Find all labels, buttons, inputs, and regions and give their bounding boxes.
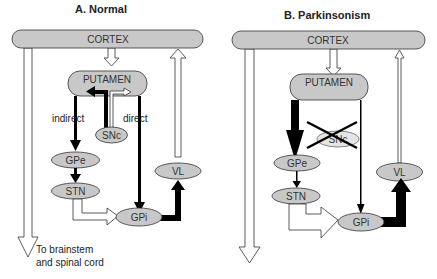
- node-gpe-b: GPe: [274, 155, 320, 171]
- node-stn-label-b: STN: [286, 191, 306, 202]
- output-label-line1: To brainstem: [36, 244, 93, 255]
- cortex-to-putamen-arrow: [104, 48, 119, 66]
- vl-to-cortex-arrow-b: [395, 50, 404, 163]
- node-gpi-b: GPi: [338, 213, 384, 231]
- basal-ganglia-diagram: A. Normal CORTEX PUTAMEN: [0, 0, 437, 279]
- node-snc-label: SNc: [102, 130, 121, 141]
- node-gpi: GPi: [116, 208, 162, 226]
- node-vl-label-b: VL: [393, 167, 406, 178]
- stn-to-gpi-arrow-b: [289, 204, 338, 238]
- panel-title-parkinsonism: B. Parkinsonism: [284, 9, 370, 21]
- node-snc: SNc: [96, 127, 128, 143]
- node-cortex: CORTEX: [12, 30, 203, 48]
- node-cortex-label-b: CORTEX: [307, 35, 349, 46]
- panel-title-normal: A. Normal: [75, 3, 127, 15]
- indirect-putamen-to-gpe-arrow-b: [286, 100, 304, 160]
- node-putamen-label: PUTAMEN: [83, 74, 131, 85]
- node-gpi-label-b: GPi: [353, 217, 370, 228]
- panel-normal: A. Normal CORTEX PUTAMEN: [12, 3, 203, 268]
- node-stn-b: STN: [272, 188, 320, 204]
- node-cortex-label: CORTEX: [87, 34, 129, 45]
- label-direct: direct: [123, 113, 148, 124]
- node-cortex-b: CORTEX: [232, 31, 425, 49]
- node-vl-b: VL: [377, 163, 423, 181]
- cortex-to-putamen-arrow-b: [326, 49, 341, 76]
- node-snc-b-crossed: SNc: [307, 122, 359, 148]
- gpe-to-stn-arrow: [70, 168, 81, 183]
- stn-to-gpi-arrow: [73, 199, 118, 225]
- gpe-to-stn-arrow-b: [293, 171, 302, 188]
- node-putamen-b: PUTAMEN: [290, 74, 368, 100]
- node-gpe-label-b: GPe: [287, 158, 307, 169]
- node-gpi-label: GPi: [131, 212, 148, 223]
- node-vl-label: VL: [172, 166, 185, 177]
- panel-parkinsonism: B. Parkinsonism CORTEX PUTAMEN: [232, 9, 425, 263]
- node-stn: STN: [52, 183, 100, 199]
- direct-putamen-to-gpi-arrow-b: [357, 100, 365, 214]
- output-label-line2: and spinal cord: [36, 257, 104, 268]
- node-gpe: GPe: [52, 152, 100, 168]
- cortex-to-brainstem-arrow: [18, 48, 38, 257]
- node-putamen-label-b: PUTAMEN: [305, 77, 353, 88]
- node-gpe-label: GPe: [65, 155, 85, 166]
- gpi-to-vl-arrow: [160, 180, 185, 221]
- vl-to-cortex-arrow: [170, 49, 186, 157]
- gpi-to-vl-arrow-b: [380, 178, 411, 227]
- label-indirect: indirect: [52, 113, 84, 124]
- node-stn-label: STN: [66, 186, 86, 197]
- cortex-to-brainstem-arrow-b: [239, 49, 260, 263]
- node-vl: VL: [155, 163, 201, 179]
